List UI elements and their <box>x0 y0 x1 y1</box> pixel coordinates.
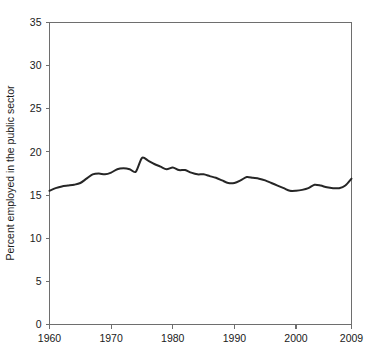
x-axis-ticks <box>50 325 352 329</box>
y-tick-label: 15 <box>30 189 42 201</box>
y-tick-label: 5 <box>36 275 42 287</box>
x-tick-label: 2000 <box>284 332 308 344</box>
y-tick-label: 30 <box>30 59 42 71</box>
y-tick-label: 35 <box>30 16 42 28</box>
y-tick-label: 25 <box>30 102 42 114</box>
x-tick-label: 1990 <box>223 332 247 344</box>
y-tick-label: 0 <box>36 318 42 330</box>
x-tick-label: 1970 <box>99 332 123 344</box>
x-axis: 196019701980199020002009 <box>38 325 364 344</box>
x-tick-label: 1980 <box>161 332 185 344</box>
y-axis: 05101520253035 <box>30 16 50 330</box>
y-axis-tick-labels: 05101520253035 <box>30 16 42 330</box>
x-tick-label: 2009 <box>340 332 364 344</box>
x-tick-label: 1960 <box>38 332 62 344</box>
data-series-line <box>50 158 352 191</box>
x-axis-tick-labels: 196019701980199020002009 <box>38 332 364 344</box>
chart-figure: 05101520253035 196019701980199020002009 … <box>0 0 370 363</box>
y-axis-ticks <box>46 23 50 325</box>
y-tick-label: 10 <box>30 232 42 244</box>
line-chart: 05101520253035 196019701980199020002009 … <box>0 0 370 363</box>
y-axis-title: Percent employed in the public sector <box>4 85 16 261</box>
y-tick-label: 20 <box>30 146 42 158</box>
